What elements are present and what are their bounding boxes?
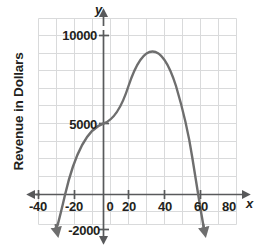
chart-plot-area bbox=[0, 0, 258, 252]
x-tick-label-20: 20 bbox=[122, 199, 136, 214]
x-tick-label-40: 40 bbox=[158, 199, 172, 214]
chart-figure: Revenue in Dollars bbox=[0, 0, 258, 252]
y-tick-label--2000: -2000 bbox=[68, 223, 100, 238]
x-tick-label-60: 60 bbox=[194, 199, 208, 214]
x-tick-label--40: -40 bbox=[29, 199, 47, 214]
x-tick-label-0: 0 bbox=[107, 199, 114, 214]
grid-lines bbox=[39, 19, 237, 225]
x-tick-label--20: -20 bbox=[65, 199, 83, 214]
y-tick-label-5000: 5000 bbox=[69, 117, 97, 132]
y-tick-label-10000: 10000 bbox=[62, 28, 97, 43]
x-tick-label-80: 80 bbox=[222, 199, 236, 214]
y-axis-variable-label: y bbox=[95, 2, 102, 17]
x-axis-variable-label: x bbox=[246, 196, 253, 211]
